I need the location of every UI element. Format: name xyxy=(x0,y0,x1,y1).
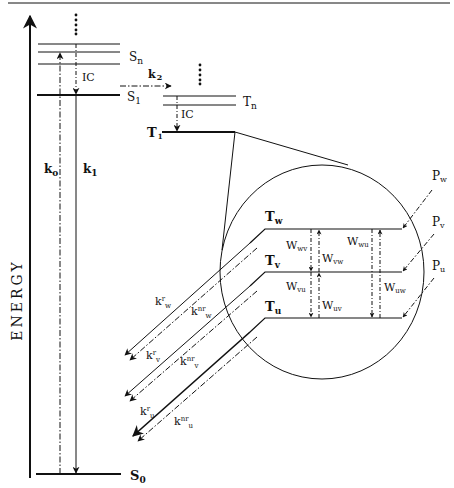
level-sn xyxy=(38,44,120,64)
label-ic-singlet: IC xyxy=(82,71,95,84)
label-pv: Pv xyxy=(432,215,445,230)
level-tu xyxy=(250,318,402,332)
label-wuw: Wuw xyxy=(384,281,406,295)
population-arrows xyxy=(403,190,434,317)
label-knrv: knrv xyxy=(180,355,199,370)
label-tu: Tu xyxy=(265,299,282,316)
label-kru: kru xyxy=(140,405,155,420)
label-k1: k1 xyxy=(83,162,98,178)
label-k0: ko xyxy=(44,162,58,178)
label-tv: Tv xyxy=(265,253,281,270)
label-s1: S1 xyxy=(127,90,141,106)
label-wwu: Wwu xyxy=(347,235,369,249)
label-wwv: Wwv xyxy=(286,239,307,253)
sn-ellipsis xyxy=(75,14,78,36)
tn-ellipsis xyxy=(199,64,202,86)
label-s0: S0 xyxy=(130,468,146,485)
zoom-lines xyxy=(222,132,348,250)
energy-axis-label: ENERGY xyxy=(9,259,25,340)
label-pw: Pw xyxy=(432,169,447,184)
label-knru: knru xyxy=(174,415,194,430)
energy-axis: ENERGY xyxy=(9,16,30,478)
label-t1: T1 xyxy=(147,125,163,141)
label-tn: Tn xyxy=(243,95,257,111)
label-tw: Tw xyxy=(265,209,283,226)
level-tw xyxy=(250,229,402,243)
label-k2: k2 xyxy=(148,68,162,82)
label-ic-triplet: IC xyxy=(181,108,194,121)
label-wvu: Wvu xyxy=(286,280,306,294)
label-sn: Sn xyxy=(129,50,143,66)
label-knrw: knrw xyxy=(191,305,212,320)
jablonski-diagram: ENERGY Sn S1 IC ko k1 S0 k2 Tn IC T1 xyxy=(0,0,454,488)
label-pu: Pu xyxy=(432,259,445,274)
label-wuv: Wuv xyxy=(322,299,342,313)
level-tv xyxy=(250,272,402,286)
label-krv: krv xyxy=(146,349,160,364)
level-tn xyxy=(163,96,236,105)
label-wvw: Wvw xyxy=(322,252,343,266)
label-krw: krw xyxy=(155,295,171,310)
sublevels xyxy=(250,229,402,332)
